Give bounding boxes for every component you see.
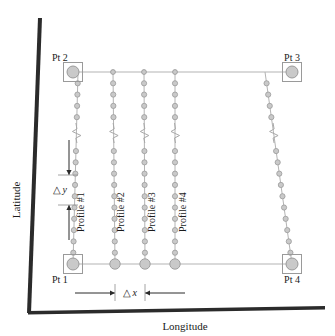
profile-line [113,72,115,264]
sounding-dot [142,171,147,176]
bottom-edge-dot [110,259,120,269]
dim-arrowhead-top [66,170,71,175]
sounding-dot [278,182,283,187]
sounding-dot [111,171,116,176]
y-axis-line [27,18,42,313]
profile-label-1: Profile #1 [75,192,86,232]
corner-label-pt4: Pt 4 [284,274,300,285]
sounding-dot [72,182,77,187]
sounding-dot [172,171,177,176]
sounding-dot [172,115,177,120]
sounding-dot [275,160,280,165]
sounding-dot [264,81,269,86]
dim-arrowhead-left [110,290,115,295]
sounding-dot [74,115,79,120]
profile-line [265,72,292,264]
y-axis-label: Latitude [10,182,22,219]
x-axis-label: Longitude [162,320,207,332]
sounding-dot [283,216,288,221]
corner-label-pt3: Pt 3 [284,52,300,63]
track-content-group: Profile #1Profile #2Profile #3Profile #4… [52,52,302,301]
sounding-dot [111,148,116,153]
profile-track-4 [171,72,180,264]
sounding-dot [75,92,80,97]
break-symbol [270,123,279,143]
survey-track-figure: Latitude Longitude Profile #1Profile #2P… [0,0,335,336]
sounding-dot [111,92,116,97]
sounding-dot [112,182,117,187]
sounding-dot [267,103,272,108]
delta-symbol: △ [123,287,131,298]
sounding-dot [172,182,177,187]
top-edge-dot [173,70,178,75]
sounding-dot [274,148,279,153]
sounding-dot [111,160,116,165]
sounding-dot [142,103,147,108]
sounding-dot [142,239,147,244]
corner-marker [67,258,79,270]
top-edge-dot [111,70,116,75]
profile-label-2: Profile #2 [115,192,126,232]
profile-track-5 [264,72,293,264]
sounding-dot [285,228,290,233]
sounding-dot [111,103,116,108]
sounding-dot [142,250,147,255]
sounding-dot [142,115,147,120]
dimension-variable: y [62,184,68,195]
dim-arrowhead-right [145,290,150,295]
sounding-dot [172,148,177,153]
sounding-dot [172,103,177,108]
corner-label-pt1: Pt 1 [52,274,68,285]
break-symbol [110,123,119,143]
bottom-edge-dot [170,259,180,269]
sounding-dot [111,81,116,86]
top-edge-dot [142,70,147,75]
dimension-label-dx: △x [123,287,138,298]
sounding-dot [269,115,274,120]
sounding-dot [172,92,177,97]
figure-canvas: Latitude Longitude Profile #1Profile #2P… [0,0,335,336]
x-axis-line [28,306,325,315]
sounding-dot [281,205,286,210]
profile-track-3 [140,72,149,264]
corner-marker [286,66,298,78]
sounding-dot [172,239,177,244]
profile-label-3: Profile #3 [146,192,157,232]
break-symbol [171,123,180,143]
profile-track-2 [110,72,119,264]
sounding-dot [280,194,285,199]
dim-arrowhead-bottom [66,205,71,210]
sounding-dot [286,239,291,244]
sounding-dot [172,81,177,86]
sounding-dot [142,160,147,165]
sounding-dot [112,239,117,244]
break-symbol [140,123,149,143]
sounding-dot [73,160,78,165]
sounding-dot [142,148,147,153]
break-symbol [72,123,81,143]
corner-label-pt2: Pt 2 [52,52,68,63]
sounding-dot [73,171,78,176]
sounding-dot [141,81,146,86]
sounding-dot [172,250,177,255]
sounding-dot [75,103,80,108]
corner-marker [286,258,298,270]
sounding-dot [266,92,271,97]
dimension-label-dy: △y [53,184,68,195]
delta-symbol: △ [53,184,61,195]
profile-track-1 [71,72,81,264]
sounding-dot [172,160,177,165]
dimension-variable: x [132,287,138,298]
profile-line [144,72,145,264]
profile-label-4: Profile #4 [177,192,188,232]
corner-marker [67,66,79,78]
sounding-dot [277,171,282,176]
sounding-dot [142,92,147,97]
sounding-dot [112,250,117,255]
bottom-edge-dot [140,259,150,269]
sounding-dot [71,239,76,244]
profile-line [73,72,78,264]
sounding-dot [73,148,78,153]
sounding-dot [111,115,116,120]
sounding-dot [142,182,147,187]
